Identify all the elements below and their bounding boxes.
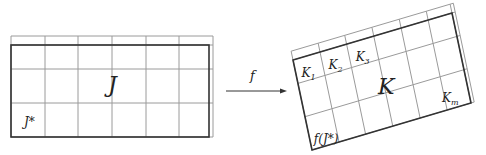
grid-line: [399, 19, 420, 118]
arrow-head-icon: [280, 89, 287, 94]
map-arrow-f: f: [226, 68, 287, 94]
grid-line: [453, 3, 474, 102]
target-region-K: K1K2K3KKmf(J*): [291, 3, 474, 150]
label-J: J: [104, 72, 118, 97]
label-K-5: f(J*): [313, 132, 339, 146]
label-K-m: Km: [441, 91, 459, 107]
source-region-J: JJ*: [11, 36, 213, 137]
label-K-1: K1: [301, 66, 316, 82]
label-K-3: K: [377, 74, 396, 99]
diagram-canvas: JJ* f K1K2K3KKmf(J*): [0, 0, 486, 155]
label-K-3: K3: [355, 50, 370, 66]
label-f: f: [249, 68, 257, 83]
label-J-star: J*: [21, 115, 35, 129]
label-K-2: K2: [328, 58, 343, 74]
grid-line: [291, 3, 453, 51]
